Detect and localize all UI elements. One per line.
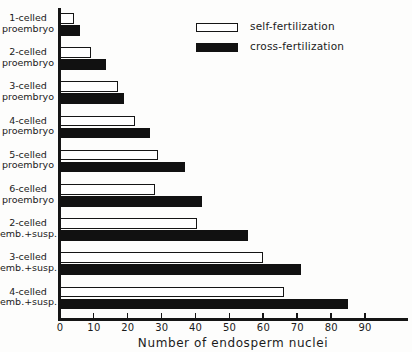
- bar-cross-fertilization: [60, 25, 80, 36]
- bar-self-fertilization: [60, 184, 155, 195]
- bar-cross-fertilization: [60, 93, 124, 104]
- bar-self-fertilization: [60, 116, 135, 127]
- x-tick-label-60: 60: [257, 322, 270, 333]
- x-tick-label-70: 70: [291, 322, 304, 333]
- category-label-line: 6-celled: [0, 184, 56, 195]
- bar-group: 3-celledemb.+susp.: [0, 252, 412, 275]
- x-tick-label-10: 10: [87, 322, 100, 333]
- x-tick-40: [195, 313, 197, 319]
- x-tick-label-0: 0: [57, 322, 64, 333]
- bar-self-fertilization: [60, 47, 91, 58]
- bar-cross-fertilization: [60, 196, 202, 207]
- category-label: 4-celledproembryo: [0, 116, 56, 137]
- category-label: 5-celledproembryo: [0, 150, 56, 171]
- bar-cross-fertilization: [60, 264, 301, 275]
- legend-swatch-self-icon: [196, 23, 238, 32]
- x-tick-label-50: 50: [223, 322, 236, 333]
- category-label-line: proembryo: [0, 24, 56, 35]
- x-tick-30: [161, 313, 163, 319]
- bar-cross-fertilization: [60, 162, 185, 173]
- bar-group: 5-celledproembryo: [0, 150, 412, 173]
- plot-area: 0102030405060708090 1-celledproembryo2-c…: [0, 0, 412, 352]
- category-label-line: proembryo: [0, 58, 56, 69]
- bar-self-fertilization: [60, 252, 263, 263]
- x-tick-60: [262, 313, 264, 319]
- category-label: 2-celledemb.+susp.: [0, 218, 56, 239]
- bar-self-fertilization: [60, 287, 284, 298]
- bar-group: 2-celledemb.+susp.: [0, 218, 412, 241]
- x-tick-label-90: 90: [359, 322, 372, 333]
- bar-cross-fertilization: [60, 299, 348, 310]
- category-label-line: emb.+susp.: [0, 229, 56, 240]
- x-tick-label-80: 80: [325, 322, 338, 333]
- bar-self-fertilization: [60, 81, 118, 92]
- category-label: 1-celledproembryo: [0, 13, 56, 34]
- category-label-line: proembryo: [0, 126, 56, 137]
- category-label-line: proembryo: [0, 195, 56, 206]
- x-axis-line: [58, 318, 408, 321]
- category-label-line: 1-celled: [0, 13, 56, 24]
- bar-self-fertilization: [60, 150, 158, 161]
- bar-cross-fertilization: [60, 59, 106, 70]
- x-tick-label-30: 30: [155, 322, 168, 333]
- x-tick-20: [127, 313, 129, 319]
- x-tick-0: [59, 313, 61, 319]
- x-tick-10: [93, 313, 95, 319]
- bar-group: 4-celledemb.+susp.: [0, 287, 412, 310]
- bar-cross-fertilization: [60, 128, 150, 139]
- bar-self-fertilization: [60, 13, 74, 24]
- category-label-line: proembryo: [0, 160, 56, 171]
- category-label-line: proembryo: [0, 92, 56, 103]
- category-label: 3-celledemb.+susp.: [0, 252, 56, 273]
- bar-group: 3-celledproembryo: [0, 81, 412, 104]
- x-tick-label-20: 20: [121, 322, 134, 333]
- x-tick-50: [229, 313, 231, 319]
- x-tick-80: [330, 313, 332, 319]
- x-axis-title: Number of endosperm nuclei: [58, 336, 408, 350]
- legend-swatch-cross-icon: [196, 43, 238, 52]
- bar-self-fertilization: [60, 218, 197, 229]
- category-label: 6-celledproembryo: [0, 184, 56, 205]
- endosperm-nuclei-bar-chart: 0102030405060708090 1-celledproembryo2-c…: [0, 0, 412, 352]
- category-label: 2-celledproembryo: [0, 47, 56, 68]
- category-label: 4-celledemb.+susp.: [0, 287, 56, 308]
- bar-group: 4-celledproembryo: [0, 116, 412, 139]
- category-label-line: emb.+susp.: [0, 263, 56, 274]
- legend-label-cross: cross-fertilization: [250, 40, 344, 52]
- bar-group: 6-celledproembryo: [0, 184, 412, 207]
- category-label-line: emb.+susp.: [0, 297, 56, 308]
- x-tick-label-40: 40: [189, 322, 202, 333]
- x-tick-70: [296, 313, 298, 319]
- x-tick-90: [364, 313, 366, 319]
- legend-label-self: self-fertilization: [250, 20, 335, 32]
- bar-cross-fertilization: [60, 230, 248, 241]
- category-label: 3-celledproembryo: [0, 81, 56, 102]
